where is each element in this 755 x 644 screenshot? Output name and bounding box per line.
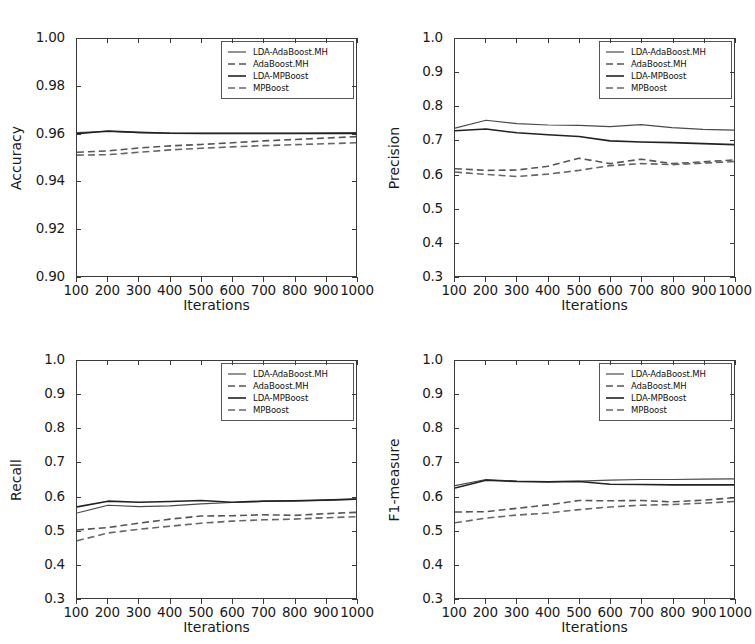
legend-item: LDA-AdaBoost.MH	[605, 46, 725, 58]
x-tick-mark-top	[76, 360, 77, 365]
y-tick-mark	[76, 428, 81, 429]
legend-label: LDA-MPBoost	[631, 394, 686, 403]
x-tick-mark-top	[673, 360, 674, 365]
x-tick-mark-top	[232, 38, 233, 43]
x-tick-mark	[704, 277, 705, 282]
y-tick-label: 0.8	[422, 422, 443, 436]
x-tick-label: 100	[441, 606, 466, 620]
y-tick-mark-right	[352, 531, 357, 532]
x-tick-label: 300	[126, 284, 151, 298]
y-tick-label: 0.5	[422, 524, 443, 538]
legend-item: AdaBoost.MH	[605, 58, 725, 70]
x-tick-mark	[107, 277, 108, 282]
x-tick-mark-top	[107, 38, 108, 43]
x-tick-mark	[295, 599, 296, 604]
y-tick-mark	[76, 565, 81, 566]
x-tick-label: 900	[313, 284, 338, 298]
x-tick-mark-top	[76, 38, 77, 43]
y-tick-label: 0.92	[36, 222, 65, 236]
y-tick-mark-right	[730, 209, 735, 210]
x-tick-mark-top	[579, 38, 580, 43]
x-tick-label: 400	[157, 284, 182, 298]
y-tick-mark	[76, 531, 81, 532]
legend-item: LDA-MPBoost	[227, 392, 347, 404]
legend-line-swatch	[605, 381, 625, 391]
x-tick-mark	[485, 277, 486, 282]
x-tick-mark-top	[735, 38, 736, 43]
x-tick-mark	[295, 277, 296, 282]
y-tick-mark	[76, 86, 81, 87]
legend-label: MPBoost	[631, 406, 667, 415]
x-tick-mark	[548, 599, 549, 604]
y-tick-mark	[454, 140, 459, 141]
figure-canvas: Accuracy 0.900.920.940.960.981.00 100200…	[0, 0, 755, 644]
series-line-lda-adaboost-mh	[455, 120, 734, 130]
y-tick-label: 0.7	[44, 456, 65, 470]
y-tick-label: 1.00	[36, 31, 65, 45]
legend-line-swatch	[605, 83, 625, 93]
legend-line-swatch	[605, 71, 625, 81]
y-tick-label: 0.8	[44, 422, 65, 436]
legend-item: MPBoost	[605, 404, 725, 416]
x-tick-mark-top	[516, 360, 517, 365]
legend-line-swatch	[605, 405, 625, 415]
y-tick-mark	[454, 209, 459, 210]
y-tick-mark	[454, 497, 459, 498]
subplot-accuracy: Accuracy 0.900.920.940.960.981.00 100200…	[0, 0, 377, 322]
y-tick-mark-right	[352, 462, 357, 463]
x-tick-mark	[579, 599, 580, 604]
x-tick-label: 700	[251, 606, 276, 620]
x-tick-label: 800	[282, 606, 307, 620]
x-tick-mark-top	[548, 360, 549, 365]
x-tick-mark-top	[138, 38, 139, 43]
legend-line-swatch	[605, 393, 625, 403]
x-tick-mark-top	[201, 360, 202, 365]
x-tick-label: 900	[691, 284, 716, 298]
y-tick-label: 0.4	[422, 236, 443, 250]
x-tick-mark-top	[170, 360, 171, 365]
x-tick-mark	[516, 599, 517, 604]
legend-f1-measure: LDA-AdaBoost.MHAdaBoost.MHLDA-MPBoostMPB…	[599, 363, 732, 421]
x-axis-title-f1-measure: Iterations	[454, 619, 735, 635]
x-tick-mark	[138, 277, 139, 282]
x-tick-label: 900	[691, 606, 716, 620]
y-tick-mark	[454, 175, 459, 176]
y-tick-label: 0.5	[422, 202, 443, 216]
subplot-recall: Recall 0.30.40.50.60.70.80.91.0 10020030…	[0, 322, 377, 644]
x-tick-mark-top	[641, 360, 642, 365]
legend-item: AdaBoost.MH	[227, 380, 347, 392]
legend-item: LDA-MPBoost	[227, 70, 347, 82]
legend-line-swatch	[605, 369, 625, 379]
x-tick-mark	[201, 277, 202, 282]
x-tick-mark	[326, 599, 327, 604]
legend-label: AdaBoost.MH	[253, 60, 309, 69]
x-tick-mark	[610, 277, 611, 282]
y-tick-mark	[454, 394, 459, 395]
subplot-precision: Precision 0.30.40.50.60.70.80.91.0 10020…	[378, 0, 755, 322]
x-tick-label: 900	[313, 606, 338, 620]
x-tick-mark	[138, 599, 139, 604]
y-tick-mark	[454, 106, 459, 107]
x-tick-mark	[735, 277, 736, 282]
legend-label: AdaBoost.MH	[631, 60, 687, 69]
y-tick-mark	[76, 462, 81, 463]
x-tick-label: 400	[157, 606, 182, 620]
y-tick-label: 0.6	[422, 490, 443, 504]
legend-item: MPBoost	[227, 82, 347, 94]
y-tick-label: 1.0	[422, 31, 443, 45]
legend-label: LDA-AdaBoost.MH	[253, 370, 328, 379]
y-tick-mark-right	[352, 497, 357, 498]
y-tick-labels-f1-measure: 0.30.40.50.60.70.80.91.0	[378, 360, 448, 599]
legend-label: AdaBoost.MH	[253, 382, 309, 391]
legend-label: LDA-AdaBoost.MH	[631, 48, 706, 57]
y-tick-mark-right	[730, 462, 735, 463]
x-tick-mark	[704, 599, 705, 604]
x-tick-mark	[326, 277, 327, 282]
legend-label: LDA-AdaBoost.MH	[631, 370, 706, 379]
x-tick-mark	[76, 599, 77, 604]
series-line-mpboost	[455, 502, 734, 523]
x-tick-mark-top	[326, 38, 327, 43]
x-tick-label: 300	[126, 606, 151, 620]
y-tick-label: 0.6	[44, 490, 65, 504]
x-tick-mark-top	[138, 360, 139, 365]
